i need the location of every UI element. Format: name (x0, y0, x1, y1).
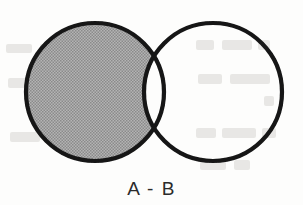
region-a-minus-b (0, 0, 303, 205)
diagram-caption: A - B (0, 178, 303, 200)
venn-diagram-figure: A - B (0, 0, 303, 205)
venn-diagram-canvas (0, 0, 303, 205)
shaded-fill (0, 0, 303, 205)
